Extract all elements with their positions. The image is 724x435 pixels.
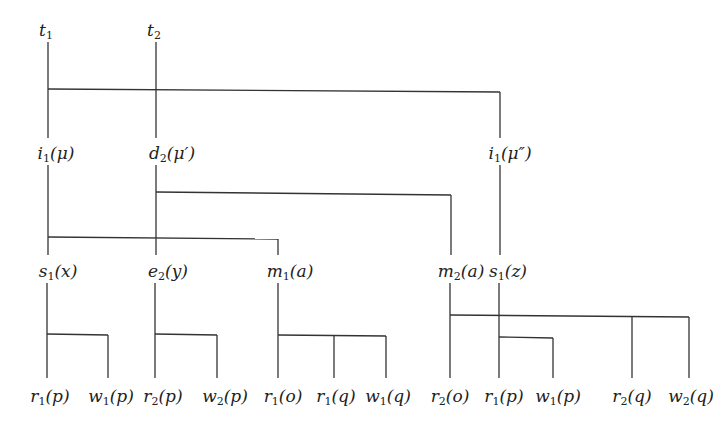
node-i1-mu-double-prime: i1(μ″): [488, 143, 531, 169]
edge-s1x-branch: [47, 334, 108, 335]
node-t2: t2: [147, 20, 161, 46]
edge-t1-branch: [48, 89, 500, 92]
node-m2-a: m2(a): [438, 261, 485, 287]
node-t1: t1: [39, 20, 53, 46]
leaf-r1-o: r1(o): [264, 386, 303, 412]
leaf-w1-q: w1(q): [365, 386, 411, 412]
node-e2-y: e2(y): [148, 261, 188, 287]
node-m1-a: m1(a): [267, 261, 314, 287]
leaf-r2-o: r2(o): [431, 386, 470, 412]
leaf-r1-q: r1(q): [316, 386, 355, 412]
edge-m1a-branch: [278, 335, 386, 336]
leaf-w2-q: w2(q): [668, 386, 714, 412]
edge-d2-branch: [156, 192, 451, 195]
leaf-r2-q: r2(q): [612, 386, 651, 412]
edge-e2y-branch: [155, 334, 217, 335]
node-d2-mu-prime: d2(μ′): [149, 143, 195, 169]
edge-s1z-branch: [499, 337, 553, 338]
node-i1-mu: i1(μ): [38, 143, 75, 169]
leaf-w1-p-b: w1(p): [535, 386, 581, 412]
edge-m2a-branch: [450, 315, 689, 317]
leaf-w2-p: w2(p): [202, 386, 248, 412]
leaf-r1-p-b: r1(p): [484, 386, 523, 412]
leaf-r1-p: r1(p): [30, 386, 69, 412]
tree-lines: [0, 0, 724, 435]
leaf-w1-p: w1(p): [88, 386, 134, 412]
node-s1-x: s1(x): [39, 261, 78, 287]
transaction-tree-diagram: t1 t2 i1(μ) d2(μ′) i1(μ″) s1(x) e2(y) m1…: [0, 0, 724, 435]
leaf-r2-p: r2(p): [143, 386, 182, 412]
node-s1-z: s1(z): [489, 261, 527, 287]
edge-i1mu-branch: [48, 237, 278, 239]
